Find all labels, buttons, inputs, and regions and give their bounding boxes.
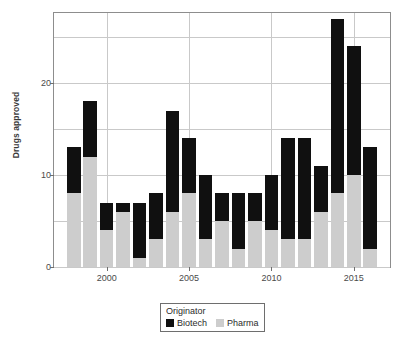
bar-segment-biotech-2001[interactable] [116, 203, 130, 212]
legend-entry-biotech[interactable]: Biotech [166, 318, 207, 328]
bar-segment-pharma-1998[interactable] [67, 193, 81, 267]
legend-entries: BiotechPharma [166, 318, 259, 328]
bar-segment-biotech-2003[interactable] [149, 193, 163, 239]
bar-2002[interactable] [133, 203, 147, 267]
bar-segment-biotech-2000[interactable] [100, 203, 114, 231]
bar-2012[interactable] [298, 138, 312, 267]
bar-segment-pharma-1999[interactable] [83, 157, 97, 267]
y-axis-tick-mark [50, 83, 54, 84]
bar-2015[interactable] [347, 46, 361, 267]
bar-segment-biotech-2005[interactable] [182, 138, 196, 193]
bar-segment-pharma-2014[interactable] [331, 193, 345, 267]
bar-segment-pharma-2001[interactable] [116, 212, 130, 267]
bar-series-group [54, 13, 390, 267]
bar-segment-biotech-1999[interactable] [83, 101, 97, 156]
x-axis-tick-label: 2005 [179, 273, 199, 283]
bar-2008[interactable] [232, 193, 246, 267]
legend-title: Originator [166, 306, 259, 317]
bar-segment-pharma-2004[interactable] [166, 212, 180, 267]
bar-segment-pharma-2007[interactable] [215, 221, 229, 267]
x-axis-tick-mark [271, 267, 272, 271]
bar-2004[interactable] [166, 111, 180, 267]
plot-area: 01020 2000200520102015 [53, 12, 391, 268]
bar-2001[interactable] [116, 203, 130, 267]
x-axis-tick-mark [354, 267, 355, 271]
bar-segment-biotech-2016[interactable] [363, 147, 377, 248]
bar-2011[interactable] [281, 138, 295, 267]
chart-figure: Drugs approved 01020 2000200520102015 Or… [0, 0, 409, 348]
bar-segment-biotech-2007[interactable] [215, 193, 229, 221]
bar-segment-pharma-2000[interactable] [100, 230, 114, 267]
bar-segment-pharma-2012[interactable] [298, 239, 312, 267]
bar-segment-pharma-2011[interactable] [281, 239, 295, 267]
chart-legend: Originator BiotechPharma [160, 303, 265, 332]
gridline-horizontal [54, 267, 390, 268]
bar-2006[interactable] [199, 175, 213, 267]
y-axis-tick-mark [50, 267, 54, 268]
legend-swatch-biotech [166, 319, 174, 327]
bar-segment-biotech-2010[interactable] [265, 175, 279, 230]
bar-segment-pharma-2008[interactable] [232, 249, 246, 267]
x-axis-tick-label: 2010 [261, 273, 281, 283]
bar-2007[interactable] [215, 193, 229, 267]
bar-2009[interactable] [248, 193, 262, 267]
legend-entry-pharma[interactable]: Pharma [216, 318, 259, 328]
bar-segment-biotech-2013[interactable] [314, 166, 328, 212]
bar-segment-pharma-2013[interactable] [314, 212, 328, 267]
x-axis-tick-label: 2015 [344, 273, 364, 283]
x-axis-tick-label: 2000 [97, 273, 117, 283]
bar-segment-biotech-2008[interactable] [232, 193, 246, 248]
bar-2003[interactable] [149, 193, 163, 267]
bar-segment-biotech-2011[interactable] [281, 138, 295, 239]
bar-segment-biotech-2006[interactable] [199, 175, 213, 239]
legend-swatch-pharma [216, 319, 224, 327]
bar-segment-pharma-2006[interactable] [199, 239, 213, 267]
bar-segment-biotech-2004[interactable] [166, 111, 180, 212]
bar-segment-pharma-2015[interactable] [347, 175, 361, 267]
bar-segment-pharma-2016[interactable] [363, 249, 377, 267]
bar-segment-pharma-2009[interactable] [248, 221, 262, 267]
bar-segment-biotech-2014[interactable] [331, 19, 345, 194]
bar-segment-biotech-1998[interactable] [67, 147, 81, 193]
bar-2005[interactable] [182, 138, 196, 267]
legend-label-pharma: Pharma [227, 318, 259, 328]
bar-segment-pharma-2003[interactable] [149, 239, 163, 267]
bar-2014[interactable] [331, 19, 345, 267]
bar-1999[interactable] [83, 101, 97, 267]
bar-segment-pharma-2005[interactable] [182, 193, 196, 267]
bar-segment-biotech-2012[interactable] [298, 138, 312, 239]
legend-label-biotech: Biotech [177, 318, 207, 328]
bar-2016[interactable] [363, 147, 377, 267]
bar-segment-biotech-2002[interactable] [133, 203, 147, 258]
y-axis-title: Drugs approved [11, 65, 21, 185]
bar-2013[interactable] [314, 166, 328, 267]
y-axis-tick-mark [50, 175, 54, 176]
x-axis-tick-mark [107, 267, 108, 271]
bar-2000[interactable] [100, 203, 114, 267]
bar-segment-pharma-2010[interactable] [265, 230, 279, 267]
bar-segment-biotech-2015[interactable] [347, 46, 361, 175]
bar-segment-biotech-2009[interactable] [248, 193, 262, 221]
bar-1998[interactable] [67, 147, 81, 267]
bar-2010[interactable] [265, 175, 279, 267]
bar-segment-pharma-2002[interactable] [133, 258, 147, 267]
x-axis-tick-mark [189, 267, 190, 271]
